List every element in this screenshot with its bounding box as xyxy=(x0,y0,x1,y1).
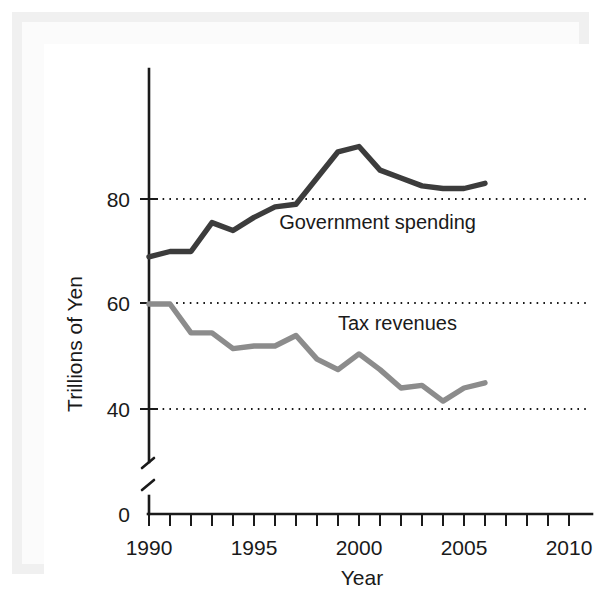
y-axis-title: Trillions of Yen xyxy=(63,276,86,412)
plot-surface: 80 60 40 0 1990 1995 2000 2005 2010 Year… xyxy=(44,44,601,586)
x-tick-label-2005: 2005 xyxy=(441,536,488,559)
image-frame-border: 80 60 40 0 1990 1995 2000 2005 2010 Year… xyxy=(12,12,589,574)
x-axis-title: Year xyxy=(341,566,383,586)
x-tick-label-2000: 2000 xyxy=(336,536,383,559)
series-line-government-spending xyxy=(149,147,485,257)
x-ticks xyxy=(149,514,569,526)
y-tick-label-60: 60 xyxy=(107,292,130,315)
y-tick-label-40: 40 xyxy=(107,398,130,421)
chart-page: 80 60 40 0 1990 1995 2000 2005 2010 Year… xyxy=(0,0,601,599)
x-tick-label-1995: 1995 xyxy=(231,536,278,559)
y-tick-label-80: 80 xyxy=(107,188,130,211)
x-tick-label-1990: 1990 xyxy=(126,536,173,559)
series-label-tax-revenues: Tax revenues xyxy=(338,312,457,334)
y-axis-break-icon xyxy=(142,458,154,490)
line-chart: 80 60 40 0 1990 1995 2000 2005 2010 Year… xyxy=(44,44,601,586)
x-tick-label-2010: 2010 xyxy=(546,536,593,559)
y-tick-label-0: 0 xyxy=(118,503,130,526)
series-label-government-spending: Government spending xyxy=(279,211,476,233)
